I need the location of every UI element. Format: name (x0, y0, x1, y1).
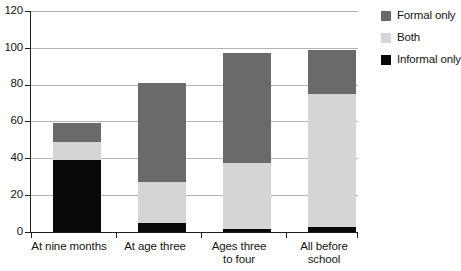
bar-segment-both[interactable] (223, 163, 271, 229)
x-label-line: All before (282, 240, 366, 253)
bar-segment-formal-only[interactable] (223, 53, 271, 163)
legend-swatch-formal-only-icon (381, 11, 391, 21)
x-axis-line (30, 232, 358, 233)
bar-segment-both[interactable] (138, 182, 186, 223)
x-tick-mark (357, 233, 358, 238)
bars-layer (31, 11, 358, 232)
bar-segment-formal-only[interactable] (308, 50, 356, 94)
legend-swatch-both-icon (381, 33, 391, 43)
bar-segment-informal-only[interactable] (138, 223, 186, 232)
x-tick-mark (286, 233, 287, 238)
legend-item-both[interactable]: Both (381, 30, 446, 52)
x-label-at-nine-months: At nine months (21, 240, 117, 253)
bar-segment-formal-only[interactable] (53, 123, 101, 141)
bar-segment-informal-only[interactable] (53, 160, 101, 232)
x-label-at-age-three: At age three (110, 240, 200, 253)
y-tick-label: 20 (0, 189, 23, 201)
x-label-all-before-school: All before school (282, 240, 366, 266)
y-tick-label: 120 (0, 5, 23, 17)
x-tick-mark (116, 233, 117, 238)
bar-segment-both[interactable] (53, 142, 101, 160)
bar-segment-both[interactable] (308, 94, 356, 227)
x-label-line: At nine months (21, 240, 117, 253)
bar-all-before-school[interactable] (308, 11, 356, 232)
bar-at-age-three[interactable] (138, 11, 186, 232)
legend-label: Informal only (397, 52, 461, 67)
legend-item-informal-only[interactable]: Informal only (381, 52, 446, 74)
x-tick-mark (201, 233, 202, 238)
y-tick-label: 60 (0, 115, 23, 127)
bar-at-nine-months[interactable] (53, 11, 101, 232)
y-tick-label: 0 (0, 226, 23, 238)
y-tick-label: 40 (0, 152, 23, 164)
x-label-line: Ages three (196, 240, 282, 253)
legend-item-formal-only[interactable]: Formal only (381, 8, 446, 30)
y-tick-label: 80 (0, 78, 23, 90)
chart-legend: Formal only Both Informal only (381, 8, 446, 74)
legend-label: Formal only (397, 8, 455, 23)
x-label-line: to four (196, 253, 282, 266)
y-tick-label: 100 (0, 42, 23, 54)
x-tick-mark (31, 233, 32, 238)
y-axis-line (30, 11, 31, 233)
x-label-ages-three-to-four: Ages three to four (196, 240, 282, 266)
bar-segment-formal-only[interactable] (138, 83, 186, 183)
x-label-line: At age three (110, 240, 200, 253)
x-label-line: school (282, 253, 366, 266)
bar-ages-three-to-four[interactable] (223, 11, 271, 232)
legend-swatch-informal-only-icon (381, 55, 391, 65)
legend-label: Both (397, 30, 420, 45)
